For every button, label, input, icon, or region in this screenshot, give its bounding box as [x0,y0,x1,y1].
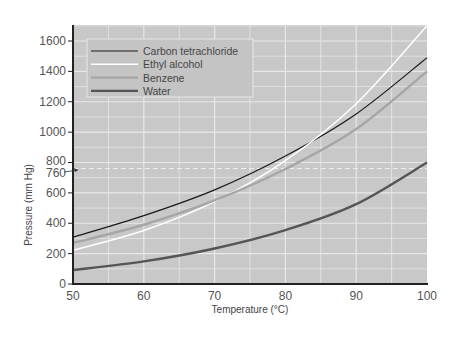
x-tick-label: 90 [350,289,364,303]
x-tick-label: 80 [279,289,293,303]
x-tick-label: 50 [66,289,80,303]
vapor-pressure-chart: 02004006007608001000120014001600 5060708… [0,0,449,337]
y-tick-label: 600 [46,186,66,200]
y-axis-label: Pressure (mm Hg) [23,164,34,246]
y-tick-label: 200 [46,247,66,261]
y-tick-label: 1200 [39,95,66,109]
y-tick-label: 800 [46,154,66,168]
x-tick-labels: 5060708090100 [66,289,437,303]
x-tick-label: 70 [208,289,222,303]
y-tick-label: 0 [59,277,66,291]
y-tick-labels: 02004006007608001000120014001600 [39,34,73,291]
legend-label: Benzene [143,72,185,84]
y-tick-label: 1000 [39,125,66,139]
legend-label: Ethyl alcohol [143,58,203,70]
y-tick-label: 400 [46,216,66,230]
y-tick-label: 1600 [39,34,66,48]
legend: Carbon tetrachlorideEthyl alcoholBenzene… [87,39,253,97]
y-tick-label: 760 [46,166,66,180]
y-tick-label: 1400 [39,64,66,78]
legend-label: Carbon tetrachloride [143,45,238,57]
legend-label: Water [143,85,171,97]
x-axis-label: Temperature (°C) [212,304,289,315]
x-tick-label: 100 [417,289,437,303]
x-tick-label: 60 [137,289,151,303]
